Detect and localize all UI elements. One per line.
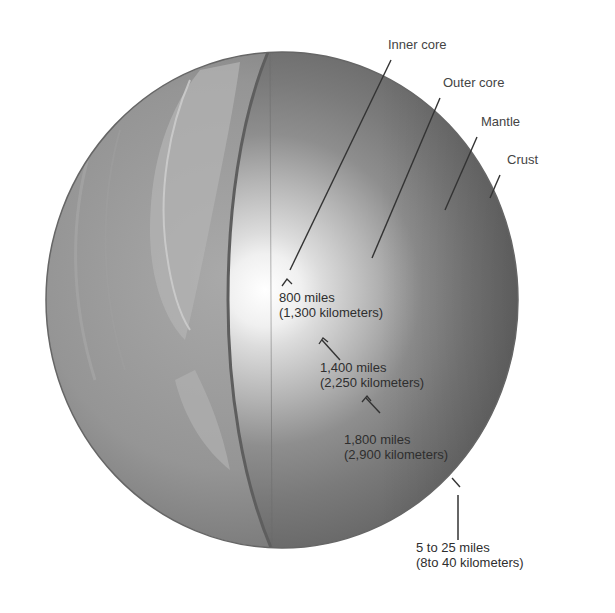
label-crust: Crust xyxy=(507,152,538,167)
distance-km: (1,300 kilometers) xyxy=(279,305,383,320)
distance-miles: 1,800 miles xyxy=(344,432,448,447)
distance-crust: 5 to 25 miles (8to 40 kilometers) xyxy=(416,540,524,570)
distance-km: (8to 40 kilometers) xyxy=(416,555,524,570)
distance-outer-core: 1,400 miles (2,250 kilometers) xyxy=(320,360,424,390)
distance-km: (2,250 kilometers) xyxy=(320,375,424,390)
label-mantle: Mantle xyxy=(481,114,520,129)
distance-miles: 800 miles xyxy=(279,290,383,305)
distance-mantle: 1,800 miles (2,900 kilometers) xyxy=(344,432,448,462)
earth-cutaway-diagram: Inner core Outer core Mantle Crust 800 m… xyxy=(0,0,615,613)
distance-inner-core: 800 miles (1,300 kilometers) xyxy=(279,290,383,320)
distance-km: (2,900 kilometers) xyxy=(344,447,448,462)
label-outer-core: Outer core xyxy=(443,75,504,90)
label-inner-core: Inner core xyxy=(388,37,447,52)
distance-miles: 5 to 25 miles xyxy=(416,540,524,555)
distance-miles: 1,400 miles xyxy=(320,360,424,375)
